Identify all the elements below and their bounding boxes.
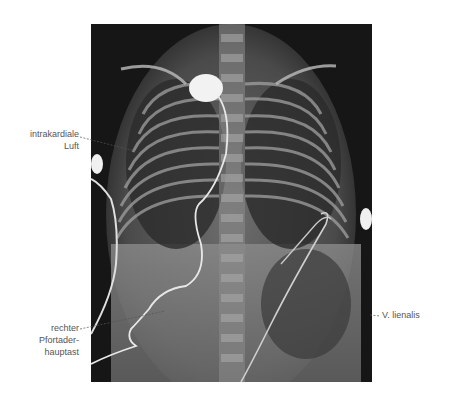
label-line: Luft [4,140,79,152]
label-line: intrakardiale [4,128,79,140]
xray-graphic [91,24,372,382]
label-line: rechter [4,322,79,334]
label-intrakardiale-luft: intrakardiale Luft [4,128,79,152]
label-v-lienalis: V. lienalis [382,309,420,321]
label-rechter-pfortaderhauptast: rechter Pfortader- hauptast [4,322,79,358]
label-line: Pfortader- [4,334,79,346]
xray-image [91,24,372,382]
label-line: V. lienalis [382,309,420,321]
label-line: hauptast [4,346,79,358]
